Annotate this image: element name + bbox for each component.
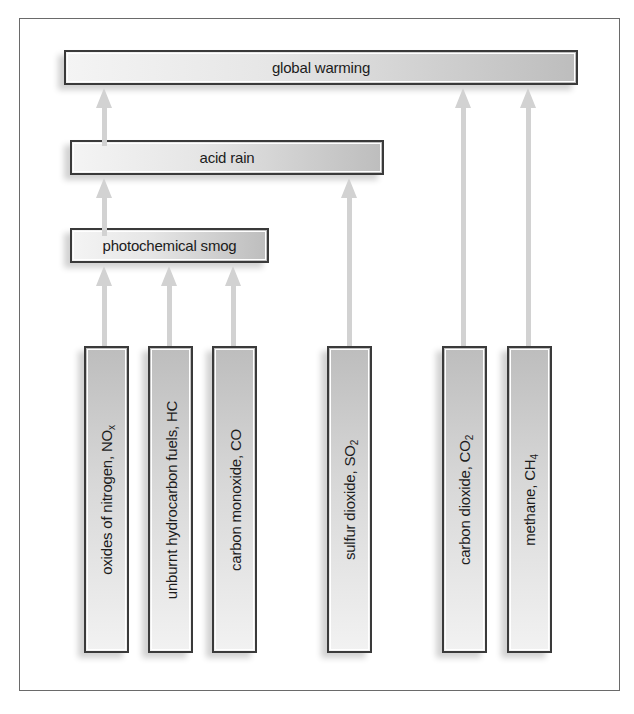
photochemical-smog-label: photochemical smog (103, 237, 237, 254)
pollutant-label-so2: sulfur dioxide, SO2 (340, 439, 359, 559)
pollutant-box-hc: unburnt hydrocarbon fuels, HC (148, 346, 193, 653)
pollutant-label-ch4: methane, CH4 (520, 454, 539, 546)
global-warming-box: global warming (64, 50, 578, 85)
acid-rain-label: acid rain (200, 149, 255, 166)
pollutant-box-co: carbon monoxide, CO (212, 346, 257, 653)
pollutant-box-co2: carbon dioxide, CO2 (442, 346, 487, 653)
pollutant-label-nox: oxides of nitrogen, NOx (97, 425, 116, 575)
acid-rain-box: acid rain (70, 140, 384, 175)
photochemical-smog-box: photochemical smog (70, 228, 269, 263)
pollutant-box-so2: sulfur dioxide, SO2 (327, 346, 372, 653)
pollutant-label-co: carbon monoxide, CO (226, 428, 243, 570)
pollutant-label-hc: unburnt hydrocarbon fuels, HC (162, 400, 179, 598)
global-warming-label: global warming (272, 59, 370, 76)
pollutant-label-co2: carbon dioxide, CO2 (455, 434, 474, 564)
pollutant-box-nox: oxides of nitrogen, NOx (84, 346, 129, 653)
pollutant-box-ch4: methane, CH4 (507, 346, 552, 653)
